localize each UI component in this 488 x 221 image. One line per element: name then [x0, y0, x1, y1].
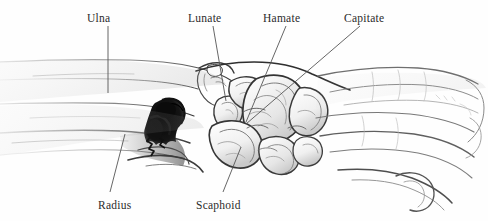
wrist-anatomy-figure: Ulna Lunate Hamate Capitate Radius Scaph…: [0, 0, 488, 221]
pisiform-bone: [293, 137, 322, 166]
label-scaphoid: Scaphoid: [196, 200, 241, 212]
label-ulna: Ulna: [87, 13, 110, 25]
wrist-illustration: [0, 0, 488, 221]
scaphoid-bone: [209, 121, 262, 168]
label-capitate: Capitate: [344, 13, 384, 25]
label-hamate: Hamate: [263, 13, 300, 25]
label-lunate: Lunate: [188, 13, 221, 25]
label-radius: Radius: [98, 200, 131, 212]
